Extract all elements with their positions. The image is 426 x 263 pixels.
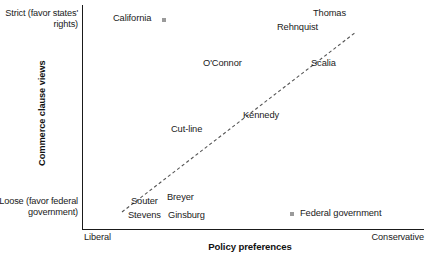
y-axis-title: Commerce clause views <box>37 53 47 173</box>
point-label-stevens: Stevens <box>128 210 161 220</box>
point-label-scalia: Scalia <box>311 58 336 68</box>
x-axis-title: Policy preferences <box>150 241 350 252</box>
annotation-cut-line: Cut-line <box>171 124 202 134</box>
y-axis-line <box>82 5 83 229</box>
point-label-ginsburg: Ginsburg <box>168 210 205 220</box>
federal-government-marker <box>290 212 294 216</box>
point-label-souter: Souter <box>131 196 158 206</box>
x-axis-line <box>82 229 424 230</box>
point-label-california: California <box>113 13 151 23</box>
point-label-thomas: Thomas <box>313 8 346 18</box>
scatter-plot-figure: Commerce clause views Policy preferences… <box>0 0 426 263</box>
point-label-federal-government: Federal government <box>300 208 381 218</box>
point-label-breyer: Breyer <box>167 192 194 202</box>
point-label-kennedy: Kennedy <box>243 110 279 120</box>
x-axis-max-label: Conservative <box>372 232 424 242</box>
point-label-rehnquist: Rehnquist <box>277 22 318 32</box>
y-axis-max-label: Strict (favor states' rights) <box>0 8 78 30</box>
y-axis-min-label: Loose (favor federal government) <box>0 196 78 218</box>
point-label-oconnor: O'Connor <box>203 58 242 68</box>
california-marker <box>162 18 166 22</box>
cut-line <box>0 0 426 263</box>
x-axis-min-label: Liberal <box>84 232 111 242</box>
